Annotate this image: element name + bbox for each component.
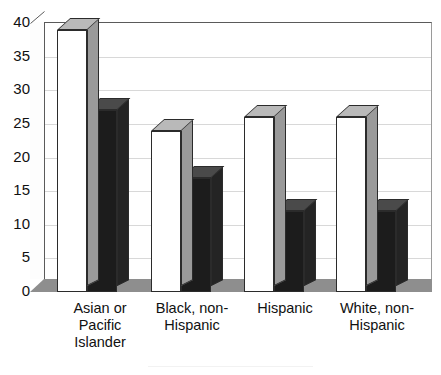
wall-top-edge-shape xyxy=(30,11,45,24)
bar-side-face xyxy=(304,199,316,286)
bar-top-face xyxy=(57,18,87,30)
bar-side-face xyxy=(211,166,223,286)
bar-side-face xyxy=(274,105,286,286)
bar-light xyxy=(57,30,87,292)
bar-group xyxy=(244,22,324,292)
bar-top-face xyxy=(244,105,274,117)
category-label-line: Hispanic xyxy=(322,317,432,334)
y-tick-label: 5 xyxy=(0,249,30,264)
bar-side-face xyxy=(117,98,129,286)
bar-front-face xyxy=(57,30,87,292)
bar-light xyxy=(151,131,181,292)
bar-top-face xyxy=(336,105,366,117)
y-tick-label: 10 xyxy=(0,216,30,231)
bar-side-face xyxy=(366,105,378,286)
bar-group xyxy=(151,22,231,292)
bar-front-face xyxy=(244,117,274,292)
y-tick-label: 15 xyxy=(0,182,30,197)
bar-group xyxy=(336,22,416,292)
bar-light xyxy=(336,117,366,292)
bars-layer xyxy=(44,22,432,292)
bar-top-face xyxy=(151,119,181,131)
chart-wall-top-edge xyxy=(30,10,45,23)
legend-box-edge xyxy=(148,366,313,367)
category-label-line: Islander xyxy=(45,334,155,351)
category-label: White, non-Hispanic xyxy=(322,300,432,334)
y-tick-label: 25 xyxy=(0,115,30,130)
bar-front-face xyxy=(336,117,366,292)
bar-side-face xyxy=(87,18,99,286)
bar-chart: 0510152025303540 Asian orPacificIslander… xyxy=(0,0,441,375)
chart-side-wall xyxy=(30,10,44,279)
bar-light xyxy=(244,117,274,292)
y-tick-label: 30 xyxy=(0,81,30,96)
category-label-line: White, non- xyxy=(322,300,432,317)
y-tick-label: 35 xyxy=(0,48,30,63)
y-tick-label: 0 xyxy=(0,283,30,298)
category-label-line: Hispanic xyxy=(137,317,247,334)
bar-side-face xyxy=(181,118,193,286)
chart-floor-corner xyxy=(30,279,44,292)
bar-group xyxy=(57,22,137,292)
y-tick-label: 40 xyxy=(0,14,30,29)
bar-front-face xyxy=(151,131,181,292)
bar-side-face xyxy=(396,199,408,286)
y-tick-label: 20 xyxy=(0,149,30,164)
